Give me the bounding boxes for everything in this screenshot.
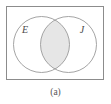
set-label-j: J [80, 24, 85, 35]
venn-diagram-figure: E J (a) [0, 0, 111, 104]
venn-diagram-svg: E J (a) [0, 0, 111, 104]
set-label-e: E [21, 24, 28, 35]
figure-caption: (a) [50, 87, 61, 98]
